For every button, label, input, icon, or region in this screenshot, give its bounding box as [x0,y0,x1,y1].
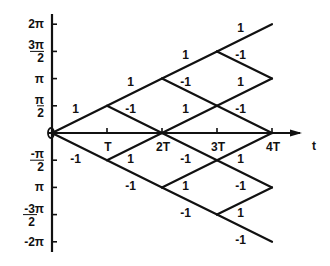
segment-label: 1 [72,102,79,116]
segment-label: 1 [127,75,134,89]
x-tick-label: 3T [211,140,226,154]
y-tick-label: -π2 [30,147,44,174]
y-tick-label: 2π [28,17,44,31]
segment-label: -1 [70,152,81,166]
y-tick-label: -2π [24,235,44,249]
phase-lattice-diagram: 2π3π2ππ2-π2π-3π2-2π T2T3T4T 1111-1-1-1-1… [0,0,330,266]
y-tick-label: π2 [35,93,45,120]
segment-label: -1 [180,152,191,166]
x-tick-label: T [104,140,112,154]
segment-label: -1 [235,233,246,247]
y-tick-label: -3π2 [23,202,44,229]
svg-text:2: 2 [37,160,44,174]
lattice-segment [107,133,162,160]
y-tick-label: π [35,180,44,194]
x-tick-label: 4T [266,140,281,154]
svg-text:-π: -π [31,147,44,161]
y-tick-label: π [35,72,44,86]
lattice-segment [52,106,107,133]
segment-label: 1 [237,21,244,35]
segment-label: -1 [235,179,246,193]
x-axis-label: t [312,139,316,153]
x-axis-arrow-icon [290,130,302,137]
segment-label: 1 [182,102,189,116]
segment-label: 1 [237,152,244,166]
lattice-segment [217,133,272,160]
segment-label: 1 [182,179,189,193]
lattice-segment [162,106,217,133]
segment-label: 1 [237,206,244,220]
svg-text:2: 2 [37,106,44,120]
segment-label: -1 [235,102,246,116]
segment-label: -1 [125,102,136,116]
x-tick-label: 2T [156,140,171,154]
segment-label: 1 [127,152,134,166]
segment-label: 1 [237,75,244,89]
svg-text:2: 2 [37,51,44,65]
segment-label: -1 [125,179,136,193]
svg-text:2: 2 [28,215,35,229]
segment-label: -1 [180,75,191,89]
svg-text:3π: 3π [28,38,44,52]
segment-label: -1 [180,206,191,220]
y-tick-label: 3π2 [28,38,44,65]
segment-label: -1 [235,48,246,62]
svg-text:-3π: -3π [24,202,44,216]
svg-text:π: π [35,93,44,107]
segment-label: 1 [182,48,189,62]
